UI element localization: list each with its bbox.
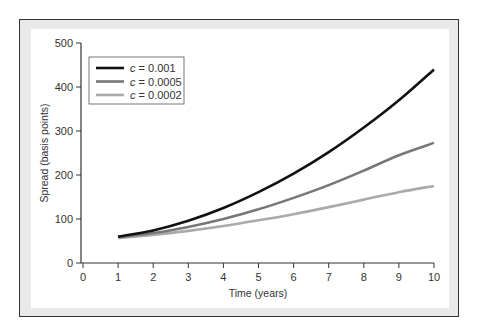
x-tick-label: 4: [220, 271, 226, 283]
legend-label: c = 0.0002: [130, 89, 182, 101]
x-tick-label: 1: [115, 271, 121, 283]
y-tick-label: 200: [55, 169, 73, 181]
x-tick-label: 10: [428, 271, 440, 283]
x-tick-label: 0: [80, 271, 86, 283]
y-tick-label: 0: [67, 257, 73, 269]
y-tick-label: 400: [55, 81, 73, 93]
x-tick-label: 8: [361, 271, 367, 283]
legend-label: c = 0.001: [130, 62, 176, 74]
x-tick-label: 3: [185, 271, 191, 283]
x-axis-title: Time (years): [229, 287, 288, 299]
x-tick-label: 5: [255, 271, 261, 283]
y-tick-label: 100: [55, 213, 73, 225]
x-tick-label: 6: [291, 271, 297, 283]
x-tick-label: 7: [326, 271, 332, 283]
y-axis-title: Spread (basis points): [38, 103, 50, 202]
y-tick-label: 300: [55, 125, 73, 137]
line-chart: 0100200300400500012345678910 c = 0.001c …: [0, 0, 480, 335]
legend-label: c = 0.0005: [130, 76, 182, 88]
legend: c = 0.001c = 0.0005c = 0.0002: [89, 57, 184, 104]
y-tick-label: 500: [55, 37, 73, 49]
series-line: [118, 143, 434, 237]
x-tick-label: 2: [150, 271, 156, 283]
x-tick-label: 9: [396, 271, 402, 283]
